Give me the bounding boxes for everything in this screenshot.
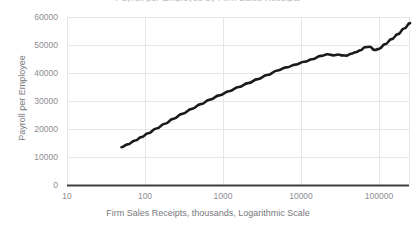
y-axis-tick-label: 0: [14, 180, 58, 190]
y-axis-tick-label: 60000: [14, 12, 58, 22]
x-axis-tick-label: 10: [37, 191, 97, 201]
x-axis-tick-label: 100: [115, 191, 175, 201]
x-axis-tick-label: 1000: [193, 191, 253, 201]
x-axis-tick-label: 100000: [349, 191, 409, 201]
x-axis-tick-label: 10000: [271, 191, 331, 201]
y-axis-title: Payroll per Employee: [17, 28, 27, 168]
x-axis-title: Firm Sales Receipts, thousands, Logarith…: [0, 208, 416, 218]
data-series-line: [122, 23, 411, 147]
chart-container: Payroll per Employee by Firm Sales Recei…: [0, 0, 416, 226]
